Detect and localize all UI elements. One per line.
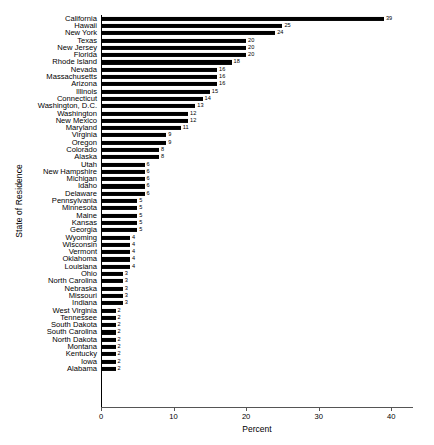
x-tick-mark xyxy=(101,407,102,411)
bar-value-label: 11 xyxy=(183,125,189,131)
bar-value-label: 2 xyxy=(118,337,121,343)
bar xyxy=(101,236,130,240)
bar-row: Washington12 xyxy=(101,110,413,117)
bar-value-label: 16 xyxy=(219,82,225,88)
bar-value-label: 9 xyxy=(168,133,171,139)
bar-value-label: 18 xyxy=(234,60,240,66)
bar xyxy=(101,287,123,291)
bar-value-label: 20 xyxy=(248,52,254,58)
bar-value-label: 5 xyxy=(139,227,142,233)
bar-value-label: 6 xyxy=(147,169,150,175)
bar-row: Arizona16 xyxy=(101,81,413,88)
bar-row: Delaware6 xyxy=(101,190,413,197)
bar xyxy=(101,243,130,247)
x-tick-mark xyxy=(319,407,320,411)
bar-row: Kansas5 xyxy=(101,219,413,226)
bar-value-label: 13 xyxy=(197,103,203,109)
bar-value-label: 2 xyxy=(118,366,121,372)
bar-row: Indiana3 xyxy=(101,300,413,307)
bar-value-label: 2 xyxy=(118,359,121,365)
x-tick-label: 10 xyxy=(169,412,177,421)
bar-row: Nevada16 xyxy=(101,66,413,73)
bar-value-label: 5 xyxy=(139,198,142,204)
bar-row: Iowa2 xyxy=(101,358,413,365)
bar xyxy=(101,192,145,196)
bar xyxy=(101,360,116,364)
bar-row: Massachusetts16 xyxy=(101,73,413,80)
bar-row: Minnesota5 xyxy=(101,205,413,212)
bar xyxy=(101,75,217,79)
bar-row: Pennsylvania5 xyxy=(101,197,413,204)
bar xyxy=(101,250,130,254)
bar xyxy=(101,163,145,167)
bar-value-label: 14 xyxy=(205,96,211,102)
bar-row: West Virginia2 xyxy=(101,307,413,314)
bar-row: Louisiana4 xyxy=(101,263,413,270)
bar-value-label: 4 xyxy=(132,242,135,248)
bar-row: New Jersey20 xyxy=(101,44,413,51)
bar-row: Washington, D.C.13 xyxy=(101,103,413,110)
bar xyxy=(101,257,130,261)
bar-row: South Carolina2 xyxy=(101,329,413,336)
bar-row: Maine5 xyxy=(101,212,413,219)
bar-value-label: 5 xyxy=(139,206,142,212)
bar xyxy=(101,148,159,152)
x-axis-ticks: 010203040 xyxy=(101,407,413,425)
bar-chart: State of Residence California39Hawaii25N… xyxy=(0,0,434,445)
bar xyxy=(101,272,123,276)
bar-value-label: 6 xyxy=(147,191,150,197)
bar-value-label: 2 xyxy=(118,315,121,321)
bar xyxy=(101,265,130,269)
bar-value-label: 4 xyxy=(132,235,135,241)
bar-value-label: 12 xyxy=(190,111,196,117)
bar-row: Rhode Island18 xyxy=(101,59,413,66)
bar-value-label: 3 xyxy=(125,279,128,285)
bar xyxy=(101,199,137,203)
bar xyxy=(101,338,116,342)
bar-value-label: 8 xyxy=(161,154,164,160)
bar-row: Texas20 xyxy=(101,37,413,44)
bar xyxy=(101,323,116,327)
bar xyxy=(101,97,203,101)
bar-value-label: 24 xyxy=(277,30,283,36)
bar-row: Wyoming4 xyxy=(101,234,413,241)
x-tick-label: 30 xyxy=(314,412,322,421)
bar-row: Wisconsin4 xyxy=(101,241,413,248)
x-tick-mark xyxy=(391,407,392,411)
bar xyxy=(101,46,246,50)
bar xyxy=(101,141,166,145)
bar xyxy=(101,17,384,21)
x-tick-label: 0 xyxy=(99,412,103,421)
bar-row: Georgia5 xyxy=(101,227,413,234)
bar-value-label: 6 xyxy=(147,184,150,190)
bar-value-label: 2 xyxy=(118,322,121,328)
bar xyxy=(101,330,116,334)
bar xyxy=(101,184,145,188)
bar-row: Illinois15 xyxy=(101,88,413,95)
bar xyxy=(101,119,188,123)
bar-row: Florida20 xyxy=(101,51,413,58)
bar-row: New Mexico12 xyxy=(101,117,413,124)
bar-row: North Carolina3 xyxy=(101,278,413,285)
bar-rows: California39Hawaii25New York24Texas20New… xyxy=(101,15,413,406)
bar-row: Oklahoma4 xyxy=(101,256,413,263)
bar-value-label: 2 xyxy=(118,330,121,336)
bar-row: South Dakota2 xyxy=(101,321,413,328)
bar-row: Alabama2 xyxy=(101,365,413,372)
bar-row: Connecticut14 xyxy=(101,95,413,102)
bar xyxy=(101,82,217,86)
bar-value-label: 39 xyxy=(386,16,392,22)
bar xyxy=(101,126,181,130)
bar-value-label: 3 xyxy=(125,293,128,299)
bar-row: Maryland11 xyxy=(101,124,413,131)
bar xyxy=(101,294,123,298)
bar xyxy=(101,345,116,349)
bar-value-label: 12 xyxy=(190,118,196,124)
bar xyxy=(101,206,137,210)
plot-area: California39Hawaii25New York24Texas20New… xyxy=(101,15,413,406)
x-tick-mark xyxy=(246,407,247,411)
bar-value-label: 16 xyxy=(219,67,225,73)
bar-row: Virginia9 xyxy=(101,132,413,139)
bar xyxy=(101,60,232,64)
bar xyxy=(101,155,159,159)
